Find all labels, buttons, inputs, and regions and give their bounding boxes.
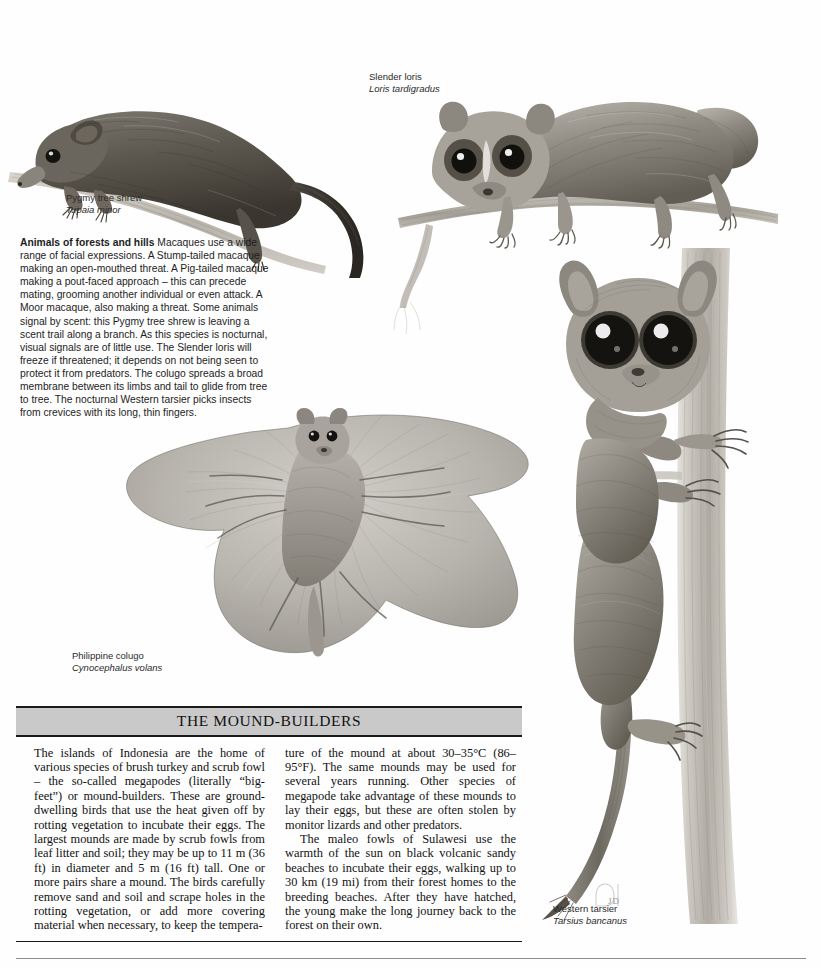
feature-left-column: The islands of Indonesia are the home of…	[34, 746, 265, 933]
body-paragraph: Macaques use a wide range of facial expr…	[20, 237, 268, 418]
feature-title: THE MOUND-BUILDERS	[16, 708, 522, 735]
caption-latin-name: Tarsius bancanus	[553, 915, 627, 927]
artist-signature: JD	[608, 896, 620, 906]
caption-common-name: Slender loris	[369, 71, 440, 83]
mound-builders-feature-box: THE MOUND-BUILDERS The islands of Indone…	[16, 706, 522, 942]
slender-loris-illustration	[386, 48, 786, 348]
main-body-text: Animals of forests and hills Macaques us…	[20, 236, 274, 419]
body-lead-in: Animals of forests and hills	[20, 237, 154, 248]
caption-pygmy-tree-shrew: Pygmy tree shrew Tupaia minor	[66, 192, 142, 215]
page-canvas: Pygmy tree shrew Tupaia minor Slender lo…	[0, 0, 822, 968]
feature-paragraph: The islands of Indonesia are the home of…	[34, 746, 265, 933]
page-bottom-rule	[16, 958, 806, 959]
caption-latin-name: Cynocephalus volans	[72, 662, 162, 674]
feature-right-column: ture of the mound at about 30–35°C (86–9…	[285, 746, 516, 933]
caption-philippine-colugo: Philippine colugo Cynocephalus volans	[72, 650, 162, 673]
caption-latin-name: Tupaia minor	[66, 204, 142, 216]
feature-bottom-rule	[16, 941, 522, 943]
caption-slender-loris: Slender loris Loris tardigradus	[369, 71, 440, 94]
feature-columns: The islands of Indonesia are the home of…	[16, 737, 522, 939]
feature-paragraph: ture of the mound at about 30–35°C (86–9…	[285, 746, 516, 832]
western-tarsier-illustration	[470, 248, 822, 928]
caption-western-tarsier: Western tarsier Tarsius bancanus	[553, 903, 627, 926]
caption-latin-name: Loris tardigradus	[369, 83, 440, 95]
caption-common-name: Pygmy tree shrew	[66, 192, 142, 204]
caption-common-name: Philippine colugo	[72, 650, 162, 662]
feature-paragraph: The maleo fowls of Sulawesi use the warm…	[285, 832, 516, 933]
